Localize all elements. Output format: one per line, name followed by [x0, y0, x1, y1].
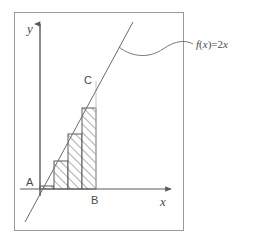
leader-line	[119, 41, 193, 55]
y-axis-label: y	[25, 21, 33, 36]
point-label-b: B	[91, 194, 98, 206]
function-line	[25, 22, 133, 222]
bar-4	[82, 108, 96, 189]
point-label-a: A	[26, 176, 34, 188]
point-label-c: C	[84, 74, 92, 86]
function-label-variable2: x	[222, 38, 228, 50]
bar-3	[68, 134, 82, 189]
function-label: f(x)=2x	[196, 38, 228, 51]
x-axis-label: x	[159, 194, 166, 209]
riemann-bars	[40, 108, 96, 189]
riemann-sum-figure: A B C y x f(x)=2x	[0, 0, 259, 248]
figure-container: A B C y x f(x)=2x	[0, 0, 259, 248]
